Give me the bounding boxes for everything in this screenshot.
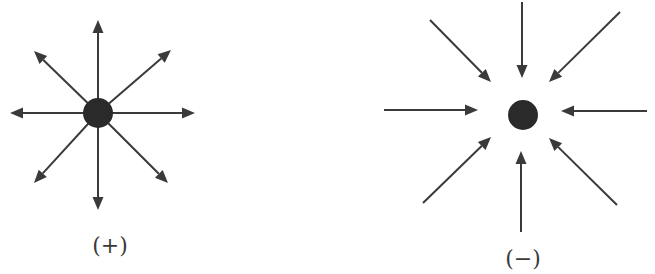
negative-charge-dot [508,100,538,130]
negative-field-arrow-0-arrowhead-icon [517,65,528,78]
positive-field-arrow-2-arrowhead-icon [10,108,23,119]
field-lines-diagram: (+) (−) [0,0,655,274]
negative-charge-group [384,2,647,232]
positive-field-arrow-3-arrowhead-icon [182,108,195,119]
positive-charge-dot [83,98,113,128]
positive-field-arrow-1-arrowhead-icon [93,197,104,210]
negative-field-arrow-2-arrowhead-icon [465,105,478,116]
positive-field-arrow-0-arrowhead-icon [93,20,104,33]
negative-charge-label: (−) [505,246,541,271]
negative-field-arrow-3-arrowhead-icon [561,106,574,117]
negative-field-arrow-1-arrowhead-icon [516,151,527,164]
negative-field-arrow-4-line [430,20,482,73]
positive-charge-group [10,20,195,210]
negative-field-arrow-7-line [558,147,617,205]
negative-field-arrow-6-line [423,146,482,203]
positive-charge-label: (+) [92,233,128,258]
negative-field-arrow-5-line [558,12,620,73]
